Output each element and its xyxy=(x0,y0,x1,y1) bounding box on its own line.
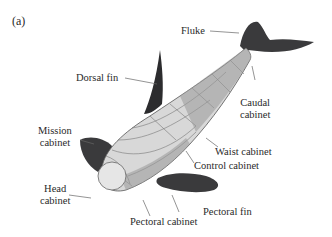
label-mission-cabinet: Mission cabinet xyxy=(38,125,72,149)
panel-label: (a) xyxy=(12,15,25,27)
label-pectoral-fin: Pectoral fin xyxy=(203,206,252,218)
label-dorsal-fin: Dorsal fin xyxy=(76,72,118,84)
label-waist-cabinet: Waist cabinet xyxy=(215,146,272,158)
label-control-cabinet: Control cabinet xyxy=(194,160,259,172)
label-head-cabinet: Head cabinet xyxy=(40,183,70,207)
label-fluke: Fluke xyxy=(181,25,205,37)
head-cabinet-shape xyxy=(98,162,126,190)
label-pectoral-cabinet: Pectoral cabinet xyxy=(130,216,197,228)
right-pectoral-fin-shape xyxy=(156,173,218,192)
fluke-shape xyxy=(240,22,314,52)
label-caudal-cabinet: Caudal cabinet xyxy=(240,97,270,121)
